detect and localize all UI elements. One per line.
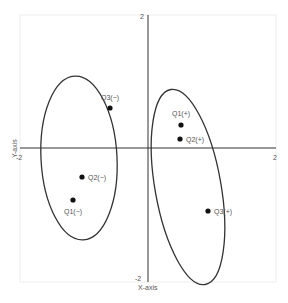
point-q2-neg [79, 174, 84, 179]
point-label-q1-pos: Q1(+) [172, 110, 190, 118]
point-q3-neg [107, 105, 112, 110]
point-q1-pos [178, 122, 183, 127]
x-max-tick: 2 [273, 154, 277, 161]
point-q1-neg [70, 197, 75, 202]
point-label-q3-neg: Q3(−) [101, 94, 119, 102]
y-max-tick: 2 [140, 13, 144, 20]
scatter-chart: 2 -2 -2 2 X-axis Y-axis Q3(−) Q1(+) Q2(+… [0, 0, 288, 303]
y-min-tick: -2 [135, 275, 141, 282]
point-q2-pos [177, 136, 182, 141]
point-label-q3-pos: Q3(+) [214, 208, 232, 216]
y-axis-label: Y-axis [11, 139, 18, 158]
point-label-q2-neg: Q2(−) [88, 174, 106, 182]
point-q3-pos [205, 208, 210, 213]
x-axis-label: X-axis [138, 284, 158, 291]
point-label-q1-neg: Q1(−) [64, 208, 82, 216]
point-label-q2-pos: Q2(+) [186, 136, 204, 144]
